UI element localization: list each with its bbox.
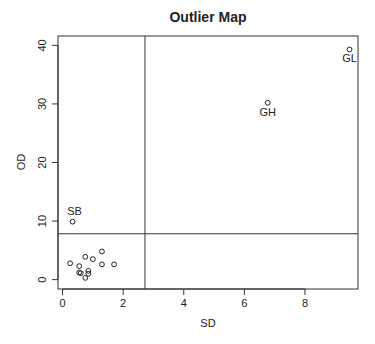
data-point — [90, 257, 95, 262]
data-point — [83, 275, 88, 280]
data-point — [112, 262, 117, 267]
y-tick-label: 10 — [36, 215, 48, 227]
y-axis-label: OD — [15, 154, 27, 171]
y-tick-label: 30 — [36, 98, 48, 110]
data-point — [68, 261, 73, 266]
point-label: SB — [67, 205, 82, 217]
x-axis: 02468 — [59, 289, 308, 309]
y-tick-label: 0 — [36, 277, 48, 283]
data-point — [265, 100, 270, 105]
y-tick-label: 40 — [36, 39, 48, 51]
data-points: SBGHGL — [67, 47, 357, 280]
data-point — [77, 264, 82, 269]
plot-frame — [58, 36, 358, 289]
x-tick-label: 2 — [120, 297, 126, 309]
x-tick-label: 8 — [302, 297, 308, 309]
outlier-map-chart: Outlier Map 02468 010203040 SBGHGL SD OD — [0, 0, 375, 344]
data-point — [70, 219, 75, 224]
point-label: GL — [342, 52, 357, 64]
x-tick-label: 4 — [181, 297, 187, 309]
data-point — [100, 262, 105, 267]
data-point — [83, 254, 88, 259]
data-point — [347, 47, 352, 52]
x-tick-label: 0 — [59, 297, 65, 309]
y-tick-label: 20 — [36, 156, 48, 168]
data-point — [100, 249, 105, 254]
x-axis-label: SD — [200, 317, 215, 329]
cutoff-lines — [58, 36, 358, 289]
x-tick-label: 6 — [241, 297, 247, 309]
point-label: GH — [259, 106, 276, 118]
y-axis: 010203040 — [36, 39, 58, 282]
chart-title: Outlier Map — [169, 9, 246, 25]
